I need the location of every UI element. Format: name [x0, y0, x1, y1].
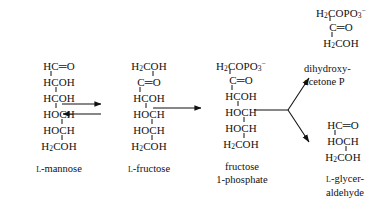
arrow-to-l-glyceraldehyde: [288, 110, 309, 142]
arrow-layer: [0, 0, 386, 205]
arrow-mannose-to-fructose: [62, 104, 101, 114]
arrow-to-dihydroxyacetone-phosphate: [288, 78, 309, 110]
reaction-scheme: HC═O HCOH HCOH HOCH HOCH H2COH L-mannose…: [0, 0, 386, 205]
arrow-aldolase-cleavage-fork: [254, 78, 309, 142]
